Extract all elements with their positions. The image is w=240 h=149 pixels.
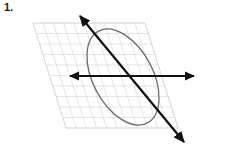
diagonal-axis-line <box>80 16 184 142</box>
figure-container: 1. <box>0 0 240 149</box>
conic-section-diagram <box>0 0 240 149</box>
